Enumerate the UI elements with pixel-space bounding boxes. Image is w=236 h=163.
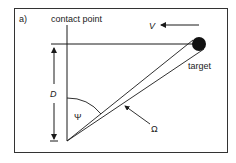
distance-label: D bbox=[50, 89, 57, 99]
interception-diagram: a) contact point V target Ψ Ω D bbox=[0, 0, 236, 163]
psi-angle-arc bbox=[67, 98, 101, 114]
target-label: target bbox=[188, 61, 212, 71]
psi-label: Ψ bbox=[74, 112, 82, 122]
wedge-line-lower bbox=[67, 49, 204, 141]
wedge-line-upper bbox=[67, 40, 193, 141]
figure-frame bbox=[15, 9, 228, 153]
omega-pointer bbox=[125, 106, 150, 124]
velocity-label: V bbox=[149, 21, 156, 31]
contact-point-label: contact point bbox=[51, 14, 103, 24]
omega-label: Ω bbox=[151, 124, 158, 134]
panel-label: a) bbox=[19, 14, 27, 24]
